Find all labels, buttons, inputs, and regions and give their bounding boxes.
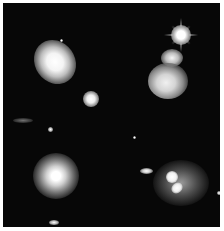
faint-star (48, 127, 53, 132)
interacting-galaxy-top-right (148, 63, 188, 99)
compact-galaxy-center (83, 91, 99, 107)
small-galaxy-mid-bottom (140, 168, 153, 174)
galaxy-photo-montage (3, 3, 220, 227)
faint-star (60, 39, 63, 42)
faint-galaxy-bottom (49, 220, 59, 225)
faint-star (133, 136, 136, 139)
faint-streak-left (13, 118, 33, 123)
elliptical-galaxy-bottom-left (33, 153, 79, 199)
galaxy-core (166, 171, 178, 183)
faint-star (217, 191, 220, 195)
spiral-galaxy-top-left (25, 32, 84, 93)
bright-star-top-right (171, 25, 191, 45)
